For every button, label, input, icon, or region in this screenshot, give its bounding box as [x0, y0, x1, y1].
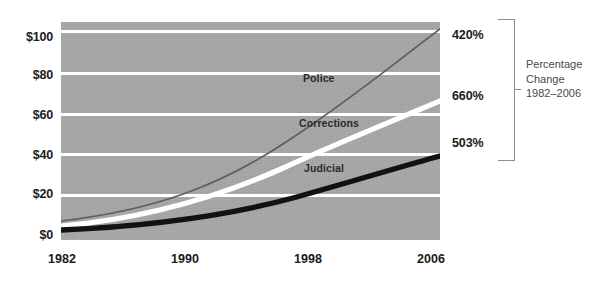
bracket-caption-line-3: 1982–2006	[526, 86, 601, 101]
x-axis-tick-1998: 1998	[273, 252, 343, 266]
y-axis-tick-100: $100	[7, 30, 53, 44]
y-axis-tick-80: $80	[7, 68, 53, 82]
y-axis-tick-0: $0	[7, 228, 53, 242]
series-label-judicial: Judicial	[304, 162, 344, 174]
bracket-caption-line-2: Change	[526, 72, 601, 87]
bracket-bottom-arm	[498, 160, 515, 161]
bracket-vertical-line	[514, 19, 515, 161]
x-axis-tick-1990: 1990	[150, 252, 220, 266]
x-axis-tick-1982: 1982	[27, 252, 97, 266]
chart-figure: $100 $80 $60 $40 $20 $0 Police Correctio…	[0, 0, 601, 285]
bracket-center-tick	[515, 89, 521, 90]
series-lines	[61, 22, 440, 240]
y-axis-tick-60: $60	[7, 108, 53, 122]
percent-label-corrections: 660%	[452, 89, 484, 103]
y-axis-tick-40: $40	[7, 148, 53, 162]
x-axis-tick-2006: 2006	[396, 252, 466, 266]
bracket-caption-line-1: Percentage	[526, 57, 601, 72]
bracket-caption: Percentage Change 1982–2006	[526, 57, 601, 101]
percent-label-judicial: 503%	[452, 136, 484, 150]
series-label-corrections: Corrections	[299, 117, 359, 129]
series-label-police: Police	[303, 72, 335, 84]
y-axis-tick-20: $20	[7, 187, 53, 201]
percent-label-police: 420%	[452, 28, 484, 42]
plot-area	[61, 22, 440, 240]
bracket-top-arm	[498, 19, 515, 20]
percentage-change-bracket	[498, 19, 516, 161]
